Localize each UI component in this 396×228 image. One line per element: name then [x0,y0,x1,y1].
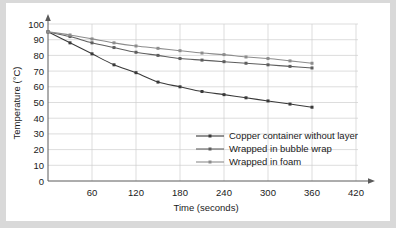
x-tick-label: 120 [128,187,144,198]
y-axis-title: Temperature (°C) [11,67,22,140]
x-tick-label: 420 [348,187,364,198]
temperature-vs-time-line-chart: 100 90 80 70 60 50 40 30 20 10 0 60 120 … [6,3,390,221]
data-point-marker [223,53,226,56]
data-point-marker [47,30,50,33]
data-point-marker [179,85,182,88]
chart-legend: Copper container without layerWrapped in… [196,130,358,167]
data-point-marker [311,66,314,69]
data-point-marker [245,62,248,65]
data-point-marker [135,71,138,74]
x-tick-labels: 60 120 180 240 300 360 420 [87,187,364,198]
data-point-marker [135,51,138,54]
data-point-marker [91,41,94,44]
legend-swatch-marker [209,148,212,151]
data-point-marker [69,41,72,44]
data-point-marker [201,90,204,93]
y-tick-label: 80 [33,50,44,61]
x-tick-label: 240 [216,187,232,198]
y-tick-label: 90 [33,34,44,45]
x-tick-label: 180 [172,187,188,198]
data-point-marker [135,44,138,47]
y-tick-label: 50 [33,97,44,108]
x-tick-label: 360 [304,187,320,198]
x-axis-arrow [368,178,375,184]
legend-item-label: Wrapped in bubble wrap [229,143,332,154]
data-point-marker [245,55,248,58]
x-tick-label: 300 [260,187,276,198]
data-point-marker [267,99,270,102]
data-point-marker [311,106,314,109]
data-point-marker [91,37,94,40]
x-axis-title: Time (seconds) [173,202,238,213]
data-point-marker [113,63,116,66]
data-point-marker [223,93,226,96]
y-tick-label: 60 [33,81,44,92]
data-point-marker [201,59,204,62]
data-point-marker [157,81,160,84]
data-point-marker [91,52,94,55]
data-point-marker [223,60,226,63]
legend-swatch-marker [209,135,212,138]
data-point-marker [267,63,270,66]
y-tick-label: 40 [33,113,44,124]
data-point-marker [289,65,292,68]
data-point-marker [113,46,116,49]
legend-item-label: Copper container without layer [229,130,358,141]
y-tick-label: 100 [28,19,44,30]
data-point-marker [179,49,182,52]
legend-swatch-marker [209,161,212,164]
data-point-marker [245,96,248,99]
y-tick-label: 70 [33,66,44,77]
y-tick-label: 30 [33,128,44,139]
data-point-marker [267,57,270,60]
y-tick-label: 20 [33,144,44,155]
data-point-marker [69,33,72,36]
data-point-marker [157,54,160,57]
y-tick-label: 10 [33,160,44,171]
data-point-marker [289,59,292,62]
y-axis-arrow [45,14,51,21]
x-tick-label: 60 [87,187,98,198]
data-point-marker [201,52,204,55]
data-point-marker [179,57,182,60]
data-point-marker [311,62,314,65]
data-point-marker [157,47,160,50]
data-point-marker [289,103,292,106]
chart-card: 100 90 80 70 60 50 40 30 20 10 0 60 120 … [6,3,390,221]
y-tick-labels: 100 90 80 70 60 50 40 30 20 10 0 [28,19,44,187]
y-tick-label: 0 [39,176,44,187]
data-point-marker [113,41,116,44]
legend-item-label: Wrapped in foam [229,156,301,167]
